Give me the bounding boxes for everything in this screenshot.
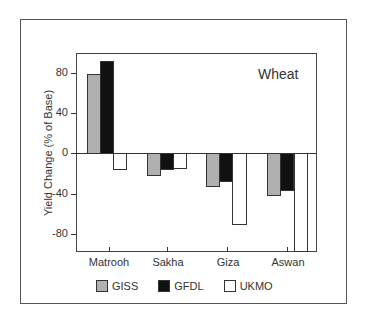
- y-tick-label: 80: [38, 66, 68, 78]
- legend-label: GFDL: [174, 280, 203, 292]
- y-tick-label: -40: [38, 187, 68, 199]
- bar-sakha-giss: [147, 153, 161, 176]
- legend-swatch-giss: [96, 280, 108, 292]
- y-tick-label: 40: [38, 106, 68, 118]
- y-tick: [71, 73, 76, 74]
- y-tick: [71, 194, 76, 195]
- y-tick-label: 0: [38, 146, 68, 158]
- bar-giza-gfdl: [219, 153, 233, 182]
- bar-aswan-giss: [267, 153, 281, 196]
- bar-aswan-gfdl: [280, 153, 294, 191]
- bar-giza-ukmo: [232, 153, 247, 225]
- x-tick-label: Matrooh: [79, 256, 139, 268]
- x-tick-label: Sakha: [138, 256, 198, 268]
- bar-sakha-ukmo: [173, 153, 187, 169]
- legend-swatch-ukmo: [224, 280, 236, 292]
- x-tick: [227, 247, 228, 252]
- legend: GISS GFDL UKMO: [96, 280, 293, 292]
- bar-matrooh-giss: [87, 74, 101, 154]
- x-tick-label: Aswan: [258, 256, 318, 268]
- bar-matrooh-gfdl: [100, 61, 114, 154]
- chart-title: Wheat: [258, 66, 298, 82]
- y-tick: [71, 234, 76, 235]
- legend-item-ukmo: UKMO: [224, 280, 273, 292]
- legend-label: UKMO: [240, 280, 273, 292]
- bar-matrooh-ukmo: [113, 153, 127, 170]
- bar-sakha-gfdl: [160, 153, 174, 170]
- legend-swatch-gfdl: [158, 280, 170, 292]
- legend-item-gfdl: GFDL: [158, 280, 203, 292]
- bar-aswan-ukmo: [294, 153, 308, 252]
- x-tick: [167, 247, 168, 252]
- legend-label: GISS: [112, 280, 138, 292]
- x-tick-label: Giza: [198, 256, 258, 268]
- legend-item-giss: GISS: [96, 280, 138, 292]
- bar-giza-giss: [206, 153, 220, 187]
- x-tick: [109, 247, 110, 252]
- y-tick: [71, 113, 76, 114]
- y-tick-label: -80: [38, 227, 68, 239]
- zero-line: [76, 153, 317, 154]
- x-tick: [287, 247, 288, 252]
